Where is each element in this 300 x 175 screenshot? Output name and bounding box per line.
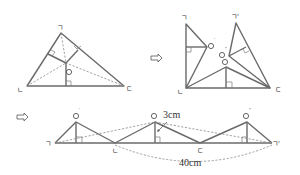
vertex-label-top-left: ㄱ xyxy=(181,14,187,22)
vertex-label-right: ㄱ' xyxy=(272,140,280,148)
vertex-label-left: ㄴ xyxy=(177,88,183,96)
bisector-right xyxy=(66,63,124,86)
right-angle-mark xyxy=(243,49,249,53)
radius-right xyxy=(66,50,78,63)
point-o xyxy=(222,59,227,64)
right-angle-mark xyxy=(186,47,191,52)
point-o-prime xyxy=(208,43,213,48)
bisector-top xyxy=(61,33,66,63)
point-o-prime xyxy=(73,113,78,118)
vertex-label-mid-right: ㄷ xyxy=(197,147,203,155)
vertex-label-right: ㄷ xyxy=(126,85,132,93)
radius-left xyxy=(48,54,66,63)
right-angle-mark xyxy=(155,137,160,143)
incircle-unfolding-diagram: ㄱ ㄴ ㄷ ′ ″ ㄱ ㄱ' ㄴ ㄷ xyxy=(0,0,300,175)
figure-3-unfolded-row: ′ ″ ㄱ ㄴ ㄷ ㄱ' 3cm 40cm xyxy=(45,107,280,168)
vertex-label-right: ㄷ xyxy=(275,86,281,94)
vertex-label-left: ㄴ xyxy=(17,86,23,94)
dashed-line xyxy=(55,122,155,143)
figure-2-split-pieces: ′ ″ ㄱ ㄱ' ㄴ ㄷ xyxy=(177,13,281,96)
vertex-label-left: ㄱ xyxy=(45,140,51,148)
incenter-label-o xyxy=(66,69,71,74)
bisector-left xyxy=(27,63,66,86)
arrow-right-icon xyxy=(17,113,28,121)
double-prime-mark: ″ xyxy=(225,46,227,52)
vertex-label-top-right: ㄱ' xyxy=(231,13,239,21)
prime-mark: ′ xyxy=(79,107,81,113)
vertex-label-mid-left: ㄴ xyxy=(112,147,118,155)
length-label: 40cm xyxy=(179,157,201,168)
right-angle-mark xyxy=(226,82,232,88)
point-o-double-prime xyxy=(243,113,248,118)
prime-mark: ′ xyxy=(214,37,216,43)
height-label: 3cm xyxy=(163,109,180,120)
triangle-outline xyxy=(27,33,124,86)
piece-right-radius xyxy=(229,47,246,56)
right-angle-mark xyxy=(66,81,71,86)
figure-1-triangle: ㄱ ㄴ ㄷ xyxy=(17,24,132,94)
double-prime-mark: ″ xyxy=(249,107,251,113)
arrow-right-icon xyxy=(151,54,162,62)
point-o-double-prime xyxy=(219,52,224,57)
dashed-line xyxy=(155,122,272,143)
vertex-label-top: ㄱ xyxy=(57,24,63,32)
point-o xyxy=(151,113,156,118)
